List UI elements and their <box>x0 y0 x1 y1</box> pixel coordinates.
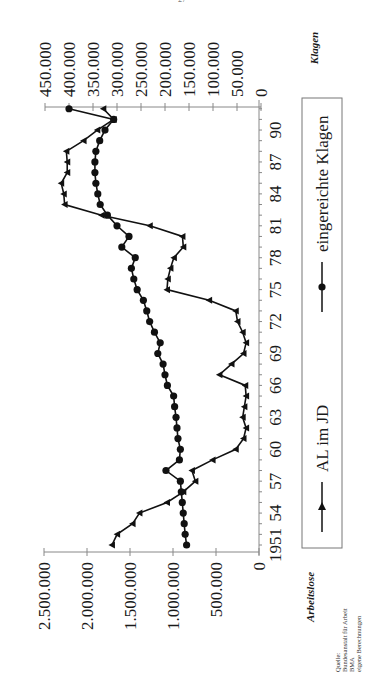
circle-marker-icon <box>130 275 137 282</box>
right-axis-tick-label: 350.000 <box>84 42 103 97</box>
triangle-marker-icon <box>58 180 64 187</box>
triangle-marker-icon <box>216 371 223 378</box>
circle-marker-icon <box>101 126 108 133</box>
circle-marker-icon <box>65 105 72 112</box>
circle-marker-icon <box>91 169 98 176</box>
triangle-marker-icon <box>188 467 195 474</box>
left-axis-tick-label: 2.500.000 <box>35 562 54 630</box>
circle-marker-icon <box>97 201 104 208</box>
legend: AL im JD eingereichte Klagen <box>302 98 342 548</box>
x-tick-label: 60 <box>266 441 285 458</box>
circle-marker-icon <box>161 371 168 378</box>
circle-marker-icon <box>118 243 125 250</box>
circle-marker-icon <box>146 318 153 325</box>
left-axis-tick-label: 1.000.000 <box>164 562 183 630</box>
axes: 1951545760636669727578818487900500.0001.… <box>35 42 285 630</box>
x-tick-label: 63 <box>266 409 285 426</box>
right-axis-tick-label: 100.000 <box>204 42 223 97</box>
triangle-marker-icon <box>114 531 121 538</box>
series-line-al <box>61 109 246 545</box>
triangle-marker-icon <box>206 297 213 304</box>
circle-marker-icon <box>159 361 166 368</box>
triangle-marker-icon <box>209 456 216 463</box>
legend-label-klagen: eingereichte Klagen <box>313 115 332 252</box>
triangle-marker-icon <box>232 446 239 453</box>
left-axis-title: Arbeitslose <box>304 572 316 623</box>
triangle-marker-icon <box>98 212 105 219</box>
series-lines <box>58 105 249 548</box>
circle-marker-icon <box>132 254 139 261</box>
circle-marker-icon <box>173 424 180 431</box>
x-tick-label: 75 <box>266 281 285 298</box>
circle-marker-icon <box>91 158 98 165</box>
circle-marker-icon <box>178 488 185 495</box>
circle-marker-icon <box>143 307 150 314</box>
circle-marker-icon <box>92 148 99 155</box>
x-tick-label: 72 <box>266 313 285 330</box>
right-axis-tick-label: 200.000 <box>156 42 175 97</box>
triangle-marker-icon <box>146 222 153 229</box>
circle-marker-icon <box>180 509 187 516</box>
right-axis-tick-label: 50.000 <box>228 50 247 97</box>
right-axis-tick-label: 250.000 <box>132 42 151 97</box>
circle-marker-icon <box>181 520 188 527</box>
circle-marker-icon <box>177 446 184 453</box>
right-axis-tick-label: 150.000 <box>180 42 199 97</box>
circle-marker-icon <box>170 392 177 399</box>
circle-marker-icon <box>154 350 161 357</box>
x-tick-label: 69 <box>266 345 285 362</box>
circle-marker-icon <box>176 456 183 463</box>
circle-marker-icon <box>182 531 189 538</box>
circle-marker-icon <box>171 403 178 410</box>
triangle-marker-icon <box>100 105 107 112</box>
circle-marker-icon <box>96 137 103 144</box>
triangle-marker-icon <box>239 329 246 336</box>
circle-marker-icon <box>177 478 184 485</box>
triangle-marker-icon <box>163 499 170 506</box>
x-tick-label: 54 <box>266 504 285 522</box>
source-note: Quelle: Bundesanstalt für Arbeit BMA eig… <box>334 608 362 672</box>
circle-marker-icon <box>104 212 111 219</box>
x-tick-label: 84 <box>266 185 285 203</box>
circle-marker-icon <box>179 499 186 506</box>
x-tick-label: 81 <box>266 217 285 234</box>
line-chart: 1951545760636669727578818487900500.0001.… <box>0 0 376 682</box>
x-tick-label: 57 <box>266 472 285 490</box>
series-line-klagen <box>69 109 187 545</box>
circle-marker-icon <box>113 222 120 229</box>
page-mark: 27 <box>178 0 186 4</box>
x-tick-label: 66 <box>266 377 285 394</box>
circle-marker-icon <box>318 283 325 290</box>
rotated-figure: 1951545760636669727578818487900500.0001.… <box>0 0 376 682</box>
circle-marker-icon <box>140 297 147 304</box>
source-line-4: eigene Berechnungen <box>355 615 362 672</box>
circle-marker-icon <box>164 382 171 389</box>
circle-marker-icon <box>110 116 117 123</box>
source-line-1: Quelle: <box>334 653 341 672</box>
circle-marker-icon <box>162 467 169 474</box>
source-line-3: BMA <box>348 657 355 672</box>
circle-marker-icon <box>128 265 135 272</box>
x-tick-label: 87 <box>266 153 285 171</box>
x-tick-label: 90 <box>266 122 285 139</box>
x-tick-label: 78 <box>266 249 285 266</box>
source-line-2: Bundesanstalt für Arbeit <box>341 608 348 672</box>
left-axis-tick-label: 2.000.000 <box>78 562 97 630</box>
circle-marker-icon <box>134 286 141 293</box>
right-axis-tick-label: 400.000 <box>60 42 79 97</box>
circle-marker-icon <box>172 414 179 421</box>
left-axis-tick-label: 500.000 <box>207 562 226 617</box>
circle-marker-icon <box>94 190 101 197</box>
circle-marker-icon <box>125 233 132 240</box>
left-axis-tick-label: 1.500.000 <box>121 562 140 630</box>
circle-marker-icon <box>92 180 99 187</box>
right-axis-tick-label: 450.000 <box>36 42 55 97</box>
circle-marker-icon <box>157 339 164 346</box>
right-axis-tick-label: 300.000 <box>108 42 127 97</box>
triangle-marker-icon <box>108 542 115 549</box>
x-tick-label: 1951 <box>266 528 285 562</box>
left-axis-tick-label: 0 <box>250 562 269 571</box>
right-axis-title: Klagen <box>308 32 320 65</box>
right-axis-tick-label: 0 <box>252 89 271 98</box>
circle-marker-icon <box>183 541 190 548</box>
